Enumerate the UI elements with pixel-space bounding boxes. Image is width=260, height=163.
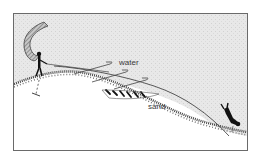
label-sand: sand <box>148 103 165 111</box>
diagram-canvas <box>14 14 247 150</box>
label-water: water <box>119 59 139 67</box>
diagram-frame: water sand <box>13 13 248 151</box>
